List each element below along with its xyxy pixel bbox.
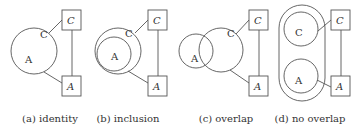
box-label-a: A xyxy=(66,81,74,92)
link-c xyxy=(236,20,249,34)
circle-label-a: A xyxy=(190,53,199,64)
box-label-c: C xyxy=(254,15,262,26)
link-a xyxy=(128,71,148,83)
caption-identity: (a) identity xyxy=(22,113,78,124)
link-c xyxy=(49,20,62,33)
circle-label-c: C xyxy=(227,28,235,39)
circle-label-a: A xyxy=(24,54,33,65)
circle-label-c: C xyxy=(125,28,133,39)
link-c xyxy=(135,20,148,33)
circle-label-a: A xyxy=(294,75,303,86)
circle-label-c: C xyxy=(40,29,48,40)
panel-no-overlap: C A C A (d) no overlap xyxy=(275,5,350,124)
panel-overlap: C A C A (c) overlap xyxy=(179,10,268,124)
caption-no-overlap: (d) no overlap xyxy=(275,113,346,124)
box-label-a: A xyxy=(253,81,261,92)
panel-identity: C A C A (a) identity xyxy=(11,10,81,124)
set-relations-figure: C A C A (a) identity C A C A (b) inclusi… xyxy=(0,0,362,136)
circle-label-a: A xyxy=(110,51,119,62)
box-label-c: C xyxy=(67,15,75,26)
merged-circle xyxy=(11,28,57,74)
circle-label-c: C xyxy=(295,27,303,38)
panel-inclusion: C A C A (b) inclusion xyxy=(95,10,167,124)
link-a xyxy=(44,72,62,83)
box-label-a: A xyxy=(335,81,343,92)
caption-inclusion: (b) inclusion xyxy=(96,113,160,124)
link-a xyxy=(230,70,249,83)
box-label-c: C xyxy=(336,15,344,26)
enclosing-capsule xyxy=(279,5,325,101)
box-label-c: C xyxy=(153,15,161,26)
caption-overlap: (c) overlap xyxy=(199,113,254,124)
circle-c xyxy=(199,28,243,72)
box-label-a: A xyxy=(152,81,160,92)
